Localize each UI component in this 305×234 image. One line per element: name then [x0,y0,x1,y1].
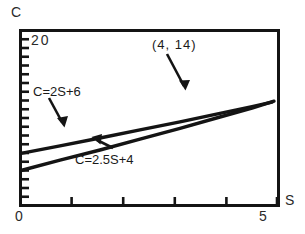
chart-figure: C S 20 0 5 (4, 14) C=2S+6 C=2.5S+4 [0,0,305,234]
line-2-equation-label: C=2.5S+4 [75,152,134,167]
x-axis-tick-label-5: 5 [259,208,267,224]
line-1-arrow-head [57,116,68,128]
y-axis-label: C [11,4,22,20]
intersection-arrow-head [179,80,190,91]
x-axis-tick-label-0: 0 [15,208,23,224]
line-1-arrow [49,98,68,128]
y-axis-ticks [21,39,29,197]
intersection-point-label: (4, 14) [152,37,197,52]
line-1-equation-label: C=2S+6 [33,84,81,99]
line-2-path [21,101,274,170]
intersection-arrow [167,54,190,91]
line-1-path [21,102,272,153]
series-line-c-2s-plus-6 [21,102,272,153]
series-line-c-25s-plus-4 [21,101,274,170]
x-axis-label: S [285,192,295,208]
y-axis-tick-label-20: 20 [31,32,51,48]
x-axis-ticks [72,197,277,204]
